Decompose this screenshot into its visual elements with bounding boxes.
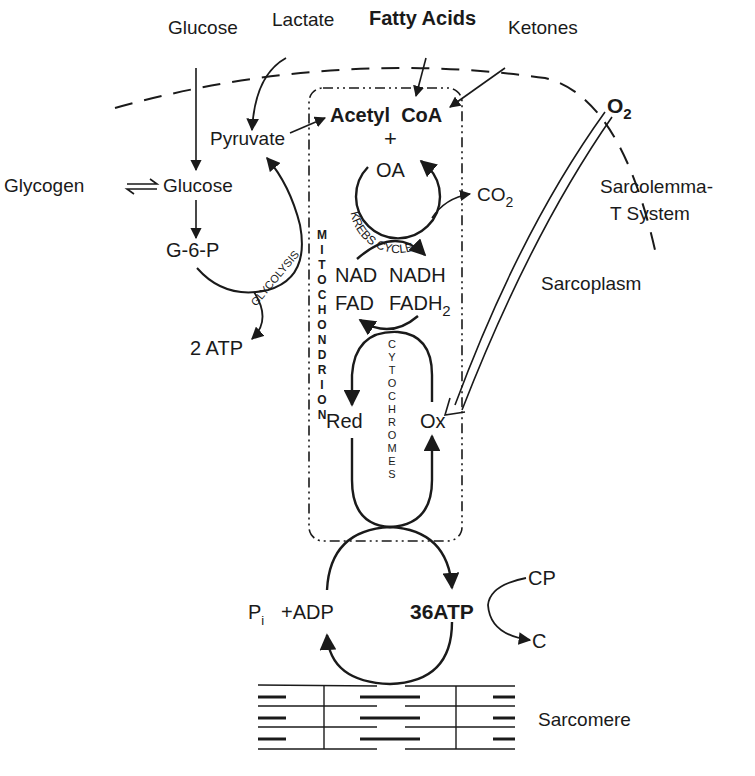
lactate-label: Lactate	[272, 9, 334, 30]
two-atp-label: 2 ATP	[190, 337, 243, 359]
sarcomere-icon	[258, 685, 515, 749]
co2-label: CO2	[477, 184, 514, 210]
pyruvate-label: Pyruvate	[210, 128, 285, 149]
nadh-label: NADH	[389, 264, 446, 286]
atp-synthesis-arrow	[327, 527, 452, 590]
sarcomere-label: Sarcomere	[538, 709, 631, 730]
glycolysis-label: GLYCOLYSIS	[248, 248, 301, 308]
oxygen-diffusion-arrow	[445, 112, 612, 415]
ketones-label: Ketones	[508, 17, 578, 38]
glycogen-equilibrium-icon	[127, 179, 157, 194]
krebs-to-co2-arrow	[432, 194, 470, 218]
krebs-cycle-label: KREBS CYCLE	[348, 210, 415, 256]
creatine-phosphate-label: CP	[528, 567, 556, 589]
lactate-to-pyruvate-arrow	[252, 58, 286, 130]
adp-label: +ADP	[281, 601, 334, 623]
t-system-label: T System	[610, 203, 690, 224]
plus-sign: +	[384, 126, 397, 151]
creatine-label: C	[532, 630, 546, 652]
glucose-label: Glucose	[163, 175, 233, 196]
metabolism-diagram: Glucose Lactate Fatty Acids Ketones O2 A…	[0, 0, 755, 776]
oxaloacetate-label: OA	[376, 159, 406, 181]
atp36-label: 36ATP	[410, 600, 474, 623]
acetyl-coa-label: Acetyl CoA	[330, 104, 442, 126]
cytochrome-upper-right	[398, 332, 432, 402]
sarcolemma-label: Sarcolemma-	[600, 176, 713, 197]
glucose-outside-label: Glucose	[168, 17, 238, 38]
cytochromes-label: CYTOCHROMES	[386, 338, 398, 481]
oxidized-label: Ox	[420, 410, 446, 432]
sarcoplasm-label: Sarcoplasm	[541, 273, 641, 294]
pyruvate-to-acetylcoa-arrow	[290, 118, 325, 133]
atp-hydrolysis-arrow	[327, 622, 452, 684]
g6p-label: G-6-P	[166, 239, 219, 261]
fatty-acids-label: Fatty Acids	[369, 7, 476, 29]
nad-label: NAD	[335, 264, 377, 286]
creatine-phosphate-arrow	[488, 578, 530, 640]
ketones-to-acetylcoa-arrow	[450, 68, 505, 107]
reduced-label: Red	[326, 410, 363, 432]
fadh2-oxidation-arrow	[360, 316, 418, 329]
fattyacids-to-acetylcoa-arrow	[416, 58, 426, 96]
glycogen-label: Glycogen	[4, 175, 84, 196]
mitochondrion-label: MITOCHONDRION	[315, 228, 329, 423]
pi-label: Pi	[248, 601, 264, 628]
fadh2-label: FADH2	[389, 292, 451, 319]
fad-label: FAD	[335, 292, 374, 314]
